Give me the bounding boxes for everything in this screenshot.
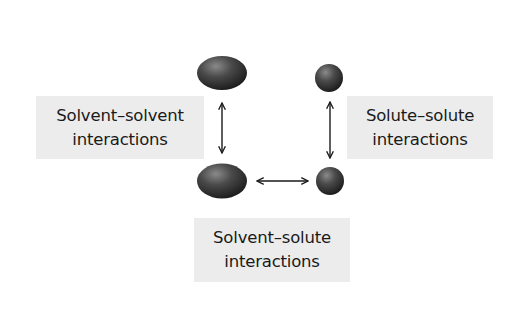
solute-solute-label: Solute–solute interactions (347, 96, 493, 159)
solvent-solute-label-line2: interactions (224, 250, 319, 274)
solute-solute-label-line1: Solute–solute (366, 104, 474, 128)
solvent-solvent-label: Solvent–solvent interactions (36, 96, 204, 159)
solvent-solute-label: Solvent–solute interactions (194, 218, 350, 282)
solute-particle-bottom (316, 167, 344, 195)
solvent-solvent-label-line2: interactions (72, 128, 167, 152)
solvent-particle-top (197, 56, 247, 90)
solute-particle-top (315, 64, 343, 92)
solvent-solvent-label-line1: Solvent–solvent (56, 104, 183, 128)
solute-solute-label-line2: interactions (372, 128, 467, 152)
solvent-solute-label-line1: Solvent–solute (213, 226, 331, 250)
solvent-particle-bottom (197, 164, 247, 199)
diagram-canvas: Solvent–solvent interactions Solute–solu… (0, 0, 523, 325)
